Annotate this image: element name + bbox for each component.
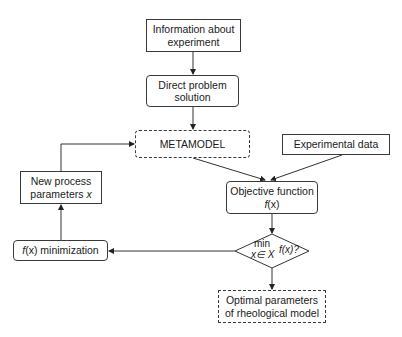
minimization-box: f(x) minimization — [13, 240, 108, 261]
optimal-line1: Optimal parameters — [226, 294, 318, 307]
newparams-var: x — [86, 188, 91, 200]
info-box: Information about experiment — [146, 19, 241, 52]
new-process-parameters-box: New process parameters x — [20, 171, 102, 204]
edge-metamodel-objective — [193, 158, 265, 180]
info-line2: experiment — [168, 36, 220, 49]
objective-arg: (x) — [267, 198, 279, 210]
info-line1: Information about — [153, 23, 235, 36]
decision-min: min — [254, 239, 270, 249]
optimal-parameters-box: Optimal parameters of rheological model — [218, 290, 326, 323]
optimal-line2: of rheological model — [225, 307, 319, 320]
newparams-line2: parameters x — [30, 188, 91, 201]
edge-experimental-objective — [271, 155, 342, 180]
experimental-data-box: Experimental data — [282, 134, 390, 155]
newparams-text: parameters — [30, 188, 86, 200]
objective-line2: f(x) — [264, 198, 279, 211]
decision-sub: x∈ X — [251, 250, 274, 260]
minimization-label: f(x) minimization — [22, 244, 98, 257]
metamodel-box: METAMODEL — [135, 130, 250, 158]
experimental-label: Experimental data — [294, 138, 379, 151]
minimization-text: minimization — [37, 244, 98, 256]
objective-function-box: Objective function f(x) — [226, 181, 318, 214]
decision-expr: f(x)? — [279, 245, 299, 255]
edge-newparams-metamodel — [61, 144, 134, 171]
objective-line1: Objective function — [230, 185, 313, 198]
direct-line1: Direct problem — [158, 79, 226, 92]
minimization-arg: (x) — [25, 244, 37, 256]
metamodel-label: METAMODEL — [160, 138, 226, 151]
direct-problem-box: Direct problem solution — [146, 75, 239, 107]
direct-line2: solution — [174, 91, 210, 104]
newparams-line1: New process — [31, 175, 92, 188]
